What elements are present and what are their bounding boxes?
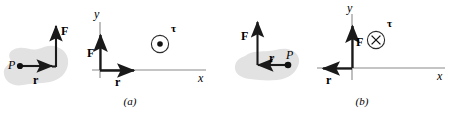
panel-b-graphics (225, 0, 450, 116)
point-p-dot-body (285, 62, 292, 69)
x-axis-label: x (437, 70, 442, 82)
panel-a: P r F y x F r τ (a) (0, 0, 225, 116)
point-p-label-body: P (286, 49, 293, 61)
torque-label: τ (387, 18, 392, 29)
f-label-axes: F (356, 36, 363, 48)
f-label-body: F (241, 30, 248, 42)
panel-a-caption: (a) (110, 96, 150, 107)
point-p-label-body: P (8, 59, 15, 71)
point-p-dot-body (17, 63, 23, 69)
torque-label: τ (171, 23, 176, 34)
r-label-axes: r (115, 76, 120, 88)
f-label-body: F (61, 25, 68, 37)
r-label-body: r (33, 74, 38, 86)
panel-b-caption: (b) (342, 96, 382, 107)
torque-out-of-page-dot (157, 41, 163, 47)
panel-b: F r P y x F r τ (b) (225, 0, 450, 116)
y-axis-label: y (347, 2, 352, 14)
r-label-axes: r (326, 74, 331, 86)
y-axis-label: y (94, 8, 99, 20)
r-label-body: r (269, 52, 274, 64)
physics-figure: P r F y x F r τ (a) (0, 0, 450, 116)
f-label-axes: F (87, 47, 94, 59)
x-axis-label: x (198, 72, 203, 84)
